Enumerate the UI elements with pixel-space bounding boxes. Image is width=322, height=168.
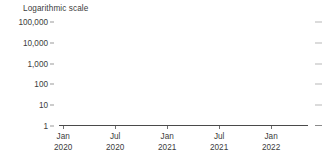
x-axis-tickmark: [167, 126, 168, 129]
x-axis-line-extension: [315, 125, 322, 126]
y-axis-tick-label: 1: [43, 122, 54, 131]
x-axis-tickmark: [63, 126, 64, 129]
y-tick-dash: [50, 63, 54, 64]
y-tick-dash: [50, 22, 54, 23]
x-axis-tick-label: Jul2020: [106, 131, 124, 153]
y-axis-tick-label: 1,000: [28, 59, 55, 68]
x-label-month: Jan: [161, 132, 174, 141]
chart-title: Logarithmic scale: [23, 4, 88, 13]
y-axis-tick-label: 10: [39, 101, 54, 110]
x-axis-line: [59, 125, 308, 126]
x-label-month: Jul: [110, 132, 120, 141]
x-axis-tick-label: Jan2022: [262, 131, 280, 153]
x-axis-tickmark: [271, 126, 272, 129]
x-label-month: Jul: [214, 132, 224, 141]
x-label-month: Jan: [265, 132, 278, 141]
y-axis-right-tick: [315, 63, 322, 64]
y-axis-tick-label: 100,000: [18, 18, 54, 27]
x-label-year: 2020: [106, 142, 124, 153]
y-axis-tick-label: 100: [34, 80, 54, 89]
x-axis-labels: Jan2020Jul2020Jan2021Jul2021Jan2022: [59, 131, 308, 161]
x-label-year: 2021: [158, 142, 176, 153]
y-tick-dash: [50, 105, 54, 106]
chart-container: Logarithmic scale 100,00010,0001,0001001…: [0, 0, 322, 168]
x-label-year: 2021: [210, 142, 228, 153]
y-axis-right-tick: [315, 84, 322, 85]
y-tick-dash: [50, 42, 54, 43]
y-axis-right-tick: [315, 22, 322, 23]
x-axis-tick-label: Jan2020: [54, 131, 72, 153]
y-tick-dash: [50, 84, 54, 85]
bar-series: [59, 22, 308, 125]
y-tick-dash: [50, 126, 54, 127]
y-axis-tick-label: 10,000: [23, 38, 54, 47]
x-label-year: 2020: [54, 142, 72, 153]
x-axis-tick-label: Jul2021: [210, 131, 228, 153]
y-axis-right-tick: [315, 42, 322, 43]
x-label-month: Jan: [57, 132, 70, 141]
x-axis-tickmark: [115, 126, 116, 129]
x-axis-tick-label: Jan2021: [158, 131, 176, 153]
y-axis-right-tick: [315, 105, 322, 106]
plot-area: 100,00010,0001,000100101: [59, 22, 308, 126]
x-axis-tickmark: [219, 126, 220, 129]
x-label-year: 2022: [262, 142, 280, 153]
